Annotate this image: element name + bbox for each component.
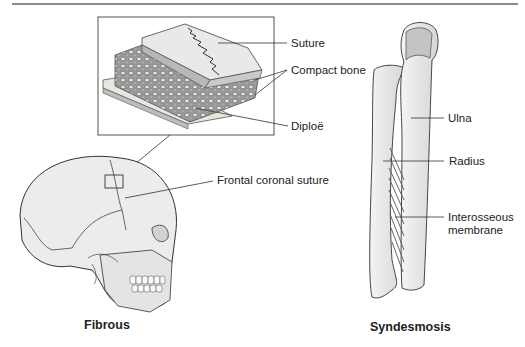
- label-membrane: membrane: [448, 224, 503, 237]
- label-suture: Suture: [291, 37, 325, 50]
- label-ulna: Ulna: [448, 112, 472, 125]
- label-diploe: Diploë: [291, 120, 324, 133]
- suture-inset: [98, 17, 274, 135]
- caption-syndesmosis: Syndesmosis: [370, 320, 451, 334]
- label-radius: Radius: [449, 155, 485, 168]
- caption-fibrous: Fibrous: [84, 318, 130, 332]
- forearm-bones: [370, 23, 438, 299]
- label-compact-bone: Compact bone: [291, 64, 366, 77]
- label-interosseous: Interosseous: [448, 211, 514, 224]
- skull: [20, 156, 213, 312]
- label-frontal-coronal-suture: Frontal coronal suture: [217, 174, 329, 187]
